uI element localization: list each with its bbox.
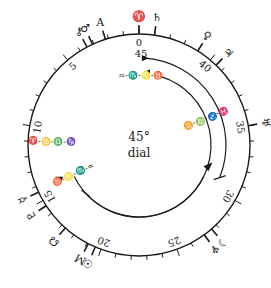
minor-tick [247,172,251,173]
minor-tick [30,109,34,110]
sign-sequence-top: ≈-♏-♌-♉ [119,70,164,80]
minor-tick [239,95,243,97]
uranus-icon: ♅ [258,117,271,129]
node-marker [59,228,65,235]
sign-sequence-lower-left: ♉-♌-♏-≈ [51,160,96,188]
node-icon: ☊ [46,233,62,249]
arc-end-bar [81,190,89,196]
major-tick [63,55,67,60]
scale-label-5: 5 [67,60,79,73]
dial-title-degrees: 45° [99,130,179,144]
node-small-icon: ⚷ [75,25,83,38]
major-tick [177,249,179,256]
venus-marker [198,43,203,51]
minor-tick [231,81,234,83]
mercury-marker [30,192,38,196]
minor-tick [36,95,40,97]
minor-tick [27,172,31,173]
minor-tick [123,31,124,35]
scale-label-0: 0 [136,37,142,48]
jupiter-marker [216,59,222,65]
dial-diagram: 051015202530354045♈♄A♂⚷♀♃♅♆☽☉M☊♇☿≈-♏-♌-♉… [0,0,271,288]
mercury-icon: ☿ [15,194,30,206]
minor-tick [59,225,62,228]
minor-tick [44,81,47,83]
minor-tick [242,187,246,188]
neptune-marker [204,235,209,242]
sign-sequence-left: ♈-♋-♎-♑ [28,135,76,147]
inner-lower-arc [85,177,203,217]
ascendant-icon: A [95,16,105,29]
major-tick [99,249,101,256]
minor-tick [32,187,36,188]
minor-tick [48,213,51,215]
uranus-marker [248,124,257,126]
dial-title-word: dial [99,146,179,160]
moon-marker [212,229,218,236]
minor-tick [78,47,80,50]
major-tick [37,201,43,205]
saturn-marker [154,26,155,35]
scale-label-35: 35 [234,120,247,134]
pluto-marker [39,206,47,211]
minor-tick [216,225,219,228]
minor-tick [115,254,116,258]
scale-label-25: 25 [166,234,182,249]
aries-icon: ♈ [132,10,146,23]
minor-tick [226,213,229,215]
minor-tick [184,40,186,44]
minor-tick [54,68,57,71]
major-tick [210,55,214,60]
major-tick [23,125,30,126]
venus-icon: ♀ [200,28,214,43]
minor-tick [107,34,108,38]
node-small-marker [83,39,87,47]
minor-tick [245,109,249,110]
minor-tick [170,34,171,38]
minor-tick [71,235,73,238]
sign-sequence-right: ♓-♐-♍-♊ [182,105,230,132]
saturn-icon: ♄ [152,11,162,24]
pluto-icon: ♇ [23,208,39,223]
jupiter-icon: ♃ [220,44,236,60]
scale-label-20: 20 [96,234,112,249]
scale-label-10: 10 [31,120,44,134]
minor-tick [191,243,193,247]
minor-tick [221,68,224,71]
major-tick [235,201,241,205]
minor-tick [162,254,163,258]
ascendant-marker [103,31,106,40]
sun-marker [92,247,96,255]
